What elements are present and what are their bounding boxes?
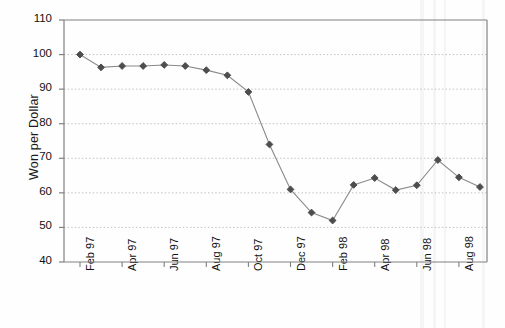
data-point-marker	[350, 182, 357, 189]
data-point-marker	[371, 175, 378, 182]
data-point-marker	[161, 62, 168, 69]
data-point-marker	[266, 141, 273, 148]
y-axis-tick-marks	[59, 20, 64, 262]
x-axis-tick-marks	[80, 262, 459, 267]
data-point-marker	[329, 217, 336, 224]
plot-area-border	[64, 20, 487, 262]
gridlines	[64, 55, 487, 228]
data-point-marker	[77, 51, 84, 58]
data-point-marker	[140, 63, 147, 70]
data-point-marker	[182, 63, 189, 70]
data-point-marker	[477, 184, 484, 191]
line-chart-plot	[0, 0, 505, 328]
data-point-marker	[119, 63, 126, 70]
data-point-marker	[392, 187, 399, 194]
data-point-markers	[77, 51, 484, 224]
chart-figure: Won per Dollar 405060708090100110 Feb 97…	[0, 0, 505, 328]
data-line	[80, 55, 480, 221]
data-point-marker	[98, 64, 105, 71]
data-point-marker	[203, 67, 210, 74]
